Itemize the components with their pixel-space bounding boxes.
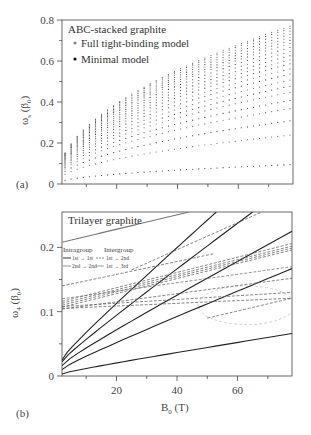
data-point [125,138,126,139]
panel-b-legend: Intragroup Intergroup 1st → 1st 2nd → 2n… [63,246,134,269]
data-point [107,174,108,175]
data-point [241,96,242,97]
data-point [204,133,205,134]
data-point [168,95,169,96]
data-point [168,104,169,105]
data-point [150,83,151,84]
data-point [210,72,211,73]
data-point [131,147,132,148]
data-point [241,81,242,82]
data-point [265,45,266,46]
data-point [265,39,266,40]
data-point [192,64,193,65]
data-point [265,165,266,166]
data-point [180,90,181,91]
legend-intra-1st-label: 1st → 1st [72,255,94,261]
data-point [223,75,224,76]
data-point [64,169,65,170]
data-point [180,68,181,69]
y-title-main: ω [18,118,30,125]
data-point [107,115,108,116]
data-point [162,141,163,142]
data-point [277,51,278,52]
data-point [216,52,217,53]
data-point [271,52,272,53]
data-point [119,114,120,115]
data-point [186,91,187,92]
data-point [162,150,163,151]
data-point [101,143,102,144]
data-point [119,123,120,124]
data-point [168,84,169,85]
data-point [174,110,175,111]
data-point [235,52,236,53]
data-point [162,85,163,86]
data-point [271,46,272,47]
data-point [247,60,248,61]
data-point [101,135,102,136]
data-point [289,135,290,136]
data-point [253,107,254,108]
data-point [162,133,163,134]
data-point [289,73,290,74]
data-point [119,173,120,174]
data-point [283,36,284,37]
data-point [137,129,138,130]
data-point [253,49,254,50]
data-point [283,39,284,40]
data-point [137,107,138,108]
data-point [229,119,230,120]
data-point [223,96,224,97]
data-point [259,68,260,69]
data-point [131,96,132,97]
data-point [265,58,266,59]
data-point [125,121,126,122]
legend-full-tb-marker [73,41,76,44]
data-point [198,118,199,119]
data-point [271,60,272,61]
data-point [186,78,187,79]
data-point [101,162,102,163]
data-point [192,146,193,147]
data-point [271,32,272,33]
data-point [247,89,248,90]
data-point [198,102,199,103]
data-point [174,130,175,131]
data-point [265,79,266,80]
data-point [210,90,211,91]
data-point [71,179,72,180]
data-point [107,123,108,124]
data-point [283,164,284,165]
data-point [156,129,157,130]
data-point [113,135,114,136]
data-point [259,92,260,93]
data-point [107,154,108,155]
data-point [113,152,114,153]
data-point [216,121,217,122]
highlight-ellipse [198,286,295,325]
data-point [259,50,260,51]
data-point [235,87,236,88]
data-point [283,135,284,136]
data-point [95,152,96,153]
data-point [107,125,108,126]
data-point [265,91,266,92]
data-point [125,118,126,119]
data-point [283,28,284,29]
data-point [131,106,132,107]
data-point [210,57,211,58]
data-point [107,110,108,111]
data-point [259,56,260,57]
legend-intra-2nd-label: 2nd → 2nd [72,263,97,269]
data-point [95,127,96,128]
data-point [289,34,290,35]
data-point [89,132,90,133]
data-point [89,124,90,125]
data-point [289,80,290,81]
data-point [113,126,114,127]
data-point [150,87,151,88]
data-point [186,94,187,95]
data-point [150,130,151,131]
data-point [162,78,163,79]
data-point [174,92,175,93]
